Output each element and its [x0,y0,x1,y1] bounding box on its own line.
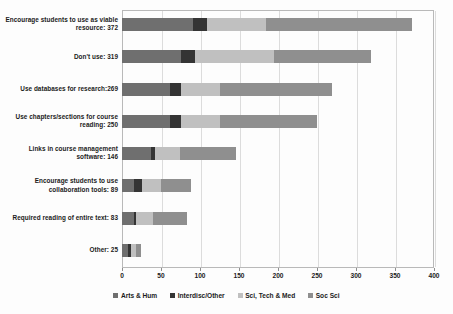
bar-segment[interactable] [134,179,143,192]
bar-row [122,139,434,171]
chart-legend: Arts & HumInterdisc/OtherSci, Tech & Med… [0,292,453,299]
legend-item[interactable]: Soc Sci [308,292,339,299]
bar-segment[interactable] [136,244,141,257]
axis-tick-label: 200 [272,272,283,279]
category-label: Encourage students to use collaboration … [0,177,118,194]
axis-tick [161,268,162,271]
axis-tick-label: 150 [233,272,244,279]
axis-tick [239,268,240,271]
bar-row [122,107,434,139]
axis-tick [434,268,435,271]
category-label: Encourage students to use as viable reso… [0,16,118,33]
axis-tick [122,268,123,271]
category-label: Links in course management software: 146 [0,145,118,162]
legend-swatch-icon [238,293,243,298]
legend-item[interactable]: Sci, Tech & Med [238,292,296,299]
stacked-bar-chart: Encourage students to use as viable reso… [0,0,453,314]
bar-segment[interactable] [122,115,170,128]
bar-segment[interactable] [170,83,181,96]
axis-tick [395,268,396,271]
stacked-bar[interactable] [122,83,332,96]
bar-row [122,236,434,268]
category-label: Use chapters/sections for course reading… [0,113,118,130]
axis-tick-label: 350 [389,272,400,279]
legend-label: Arts & Hum [121,292,157,299]
bar-row [122,10,434,42]
bar-row [122,204,434,236]
stacked-bar[interactable] [122,50,371,63]
legend-swatch-icon [113,293,118,298]
axis-tick-label: 0 [120,272,124,279]
bar-segment[interactable] [220,115,317,128]
bar-segment[interactable] [161,179,191,192]
category-label: Other: 25 [0,246,118,254]
stacked-bar[interactable] [122,212,187,225]
bar-segment[interactable] [153,212,187,225]
bar-row [122,42,434,74]
axis-tick [356,268,357,271]
stacked-bar[interactable] [122,115,317,128]
category-label: Don't use: 319 [0,53,118,61]
bar-segment[interactable] [220,83,332,96]
bar-segment[interactable] [122,18,193,31]
axis-tick-label: 400 [428,272,439,279]
axis-tick-label: 250 [311,272,322,279]
bar-segment[interactable] [122,179,134,192]
bar-segment[interactable] [122,147,151,160]
bar-segment[interactable] [195,50,274,63]
category-label: Required reading of entire text: 83 [0,214,118,222]
legend-item[interactable]: Arts & Hum [113,292,157,299]
bar-segment[interactable] [266,18,412,31]
bar-segment[interactable] [136,212,153,225]
bar-segment[interactable] [142,179,161,192]
value-axis: 050100150200250300350400 [122,268,434,286]
bar-segment[interactable] [274,50,371,63]
axis-tick-label: 300 [350,272,361,279]
category-axis-labels: Encourage students to use as viable reso… [0,10,118,268]
legend-label: Interdisc/Other [178,292,225,299]
stacked-bar[interactable] [122,18,412,31]
bar-segment[interactable] [181,50,195,63]
category-label: Use databases for research:269 [0,85,118,93]
bar-row [122,171,434,203]
bar-segment[interactable] [170,115,181,128]
stacked-bar[interactable] [122,244,142,257]
stacked-bar[interactable] [122,179,191,192]
legend-swatch-icon [308,293,313,298]
legend-label: Soc Sci [316,292,340,299]
gridline [435,11,436,267]
bar-segment[interactable] [122,83,170,96]
bars-layer [122,10,434,268]
legend-item[interactable]: Interdisc/Other [170,292,224,299]
bar-segment[interactable] [180,147,236,160]
legend-label: Sci, Tech & Med [245,292,295,299]
bar-segment[interactable] [181,83,220,96]
axis-tick [278,268,279,271]
bar-segment[interactable] [207,18,266,31]
bar-segment[interactable] [122,212,134,225]
bar-segment[interactable] [181,115,220,128]
axis-tick-label: 50 [157,272,164,279]
bar-segment[interactable] [193,18,207,31]
stacked-bar[interactable] [122,147,236,160]
axis-tick [200,268,201,271]
axis-tick [317,268,318,271]
bar-row [122,75,434,107]
bar-segment[interactable] [155,147,180,160]
legend-swatch-icon [170,293,175,298]
bar-segment[interactable] [122,50,181,63]
axis-tick-label: 100 [194,272,205,279]
